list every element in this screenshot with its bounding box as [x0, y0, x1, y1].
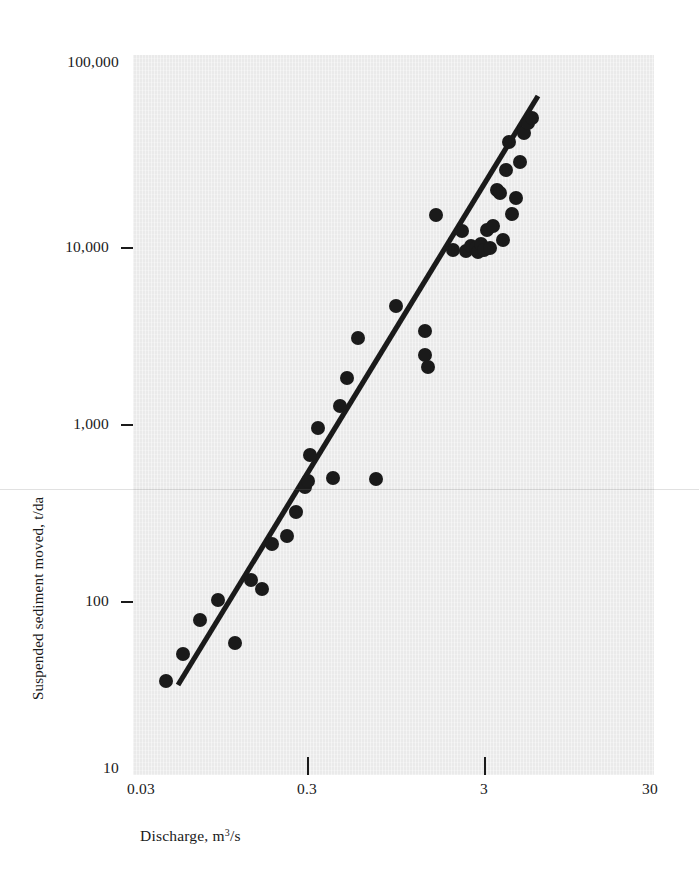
scatter-point [369, 472, 383, 486]
scatter-point [486, 219, 500, 233]
scatter-point [326, 471, 340, 485]
scatter-point [502, 135, 516, 149]
plot-svg [133, 55, 654, 775]
y-tick-mark [121, 601, 133, 603]
x-tick-mark [484, 757, 486, 775]
scatter-point [509, 191, 523, 205]
scatter-point [255, 582, 269, 596]
scatter-point [446, 243, 460, 257]
scatter-point [389, 299, 403, 313]
scatter-point [193, 613, 207, 627]
x-tick-label: 30 [642, 781, 658, 797]
scatter-point [228, 636, 242, 650]
scatter-point [525, 111, 539, 125]
scatter-point [244, 573, 258, 587]
scatter-point [418, 348, 432, 362]
scatter-point [333, 399, 347, 413]
scatter-point [455, 224, 469, 238]
scatter-point [499, 163, 513, 177]
scatter-point [280, 529, 294, 543]
y-tick-label: 10 [103, 760, 119, 776]
figure-container: 100,00010,0001,00010010 Suspended sedime… [0, 0, 699, 880]
y-tick-mark [121, 424, 133, 426]
y-tick-label: 10,000 [65, 239, 109, 255]
x-tick-label: 0.3 [297, 781, 317, 797]
y-tick-label: 100 [85, 593, 109, 609]
scatter-point [418, 324, 432, 338]
y-tick-label: 100,000 [67, 54, 119, 70]
y-tick-label: 1,000 [73, 416, 109, 432]
x-axis-title: Discharge, m3/s [140, 827, 241, 845]
scatter-point [421, 360, 435, 374]
scatter-point [483, 241, 497, 255]
regression-line [178, 96, 538, 685]
scatter-point [351, 331, 365, 345]
y-axis-title: Suspended sediment moved, t/da [30, 280, 47, 700]
scatter-point [289, 505, 303, 519]
x-tick-mark [307, 757, 309, 775]
scatter-point [301, 474, 315, 488]
scatter-point [513, 155, 527, 169]
scatter-point [211, 593, 225, 607]
x-axis-title-suffix: /s [230, 827, 241, 844]
scatter-point [311, 421, 325, 435]
plot-area [133, 55, 654, 775]
scatter-point [493, 186, 507, 200]
y-axis-tick-labels: 100,00010,0001,00010010 [0, 0, 125, 880]
x-tick-label: 0.03 [127, 781, 155, 797]
scatter-point [159, 674, 173, 688]
scatter-point [265, 537, 279, 551]
scatter-point [340, 371, 354, 385]
scatter-points [159, 111, 539, 688]
scatter-point [303, 448, 317, 462]
x-tick-label: 3 [480, 781, 488, 797]
regression-line-segment [178, 96, 538, 685]
scatter-point [176, 647, 190, 661]
x-axis-title-prefix: Discharge, m [140, 827, 225, 844]
scatter-point [496, 233, 510, 247]
scatter-point [505, 207, 519, 221]
y-tick-mark [121, 247, 133, 249]
scatter-point [429, 208, 443, 222]
